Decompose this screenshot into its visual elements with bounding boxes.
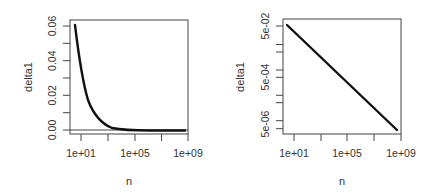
y-tick-label: 0.06 (46, 16, 58, 37)
plot-log-canvas: 5e-02 5e-04 5e-06 1e+01 1e+05 1e+09 n de… (215, 0, 430, 195)
x-tick-label: 1e+01 (279, 147, 309, 159)
x-tick-label: 1e+05 (120, 147, 150, 159)
y-ticks (63, 26, 70, 130)
y-axis-label: delta1 (22, 62, 34, 92)
x-tick-label: 1e+01 (66, 147, 96, 159)
y-ticks (276, 26, 283, 129)
x-axis-label: n (126, 175, 132, 187)
plot-box (70, 20, 188, 134)
y-tick-label: 0.00 (46, 120, 58, 141)
y-axis-label: delta1 (234, 62, 246, 92)
y-tick-label: 5e-02 (259, 12, 271, 39)
y-tick-label: 5e-06 (259, 110, 271, 137)
x-tick-label: 1e+05 (332, 147, 362, 159)
plot-linear: 0.06 0.04 0.02 0.00 1e+01 1e+05 1e+09 n … (0, 0, 215, 195)
plot-log: 5e-02 5e-04 5e-06 1e+01 1e+05 1e+09 n de… (215, 0, 430, 195)
y-tick-label: 0.02 (46, 85, 58, 106)
delta1-line (287, 25, 397, 130)
delta1-curve (75, 25, 185, 131)
x-tick-label: 1e+09 (386, 147, 416, 159)
y-tick-label: 5e-04 (259, 63, 271, 90)
x-axis-label: n (339, 175, 345, 187)
x-ticks (81, 134, 188, 141)
plot-linear-canvas: 0.06 0.04 0.02 0.00 1e+01 1e+05 1e+09 n … (0, 0, 215, 195)
x-ticks (294, 134, 401, 141)
x-tick-label: 1e+09 (173, 147, 203, 159)
y-tick-label: 0.04 (46, 50, 58, 71)
